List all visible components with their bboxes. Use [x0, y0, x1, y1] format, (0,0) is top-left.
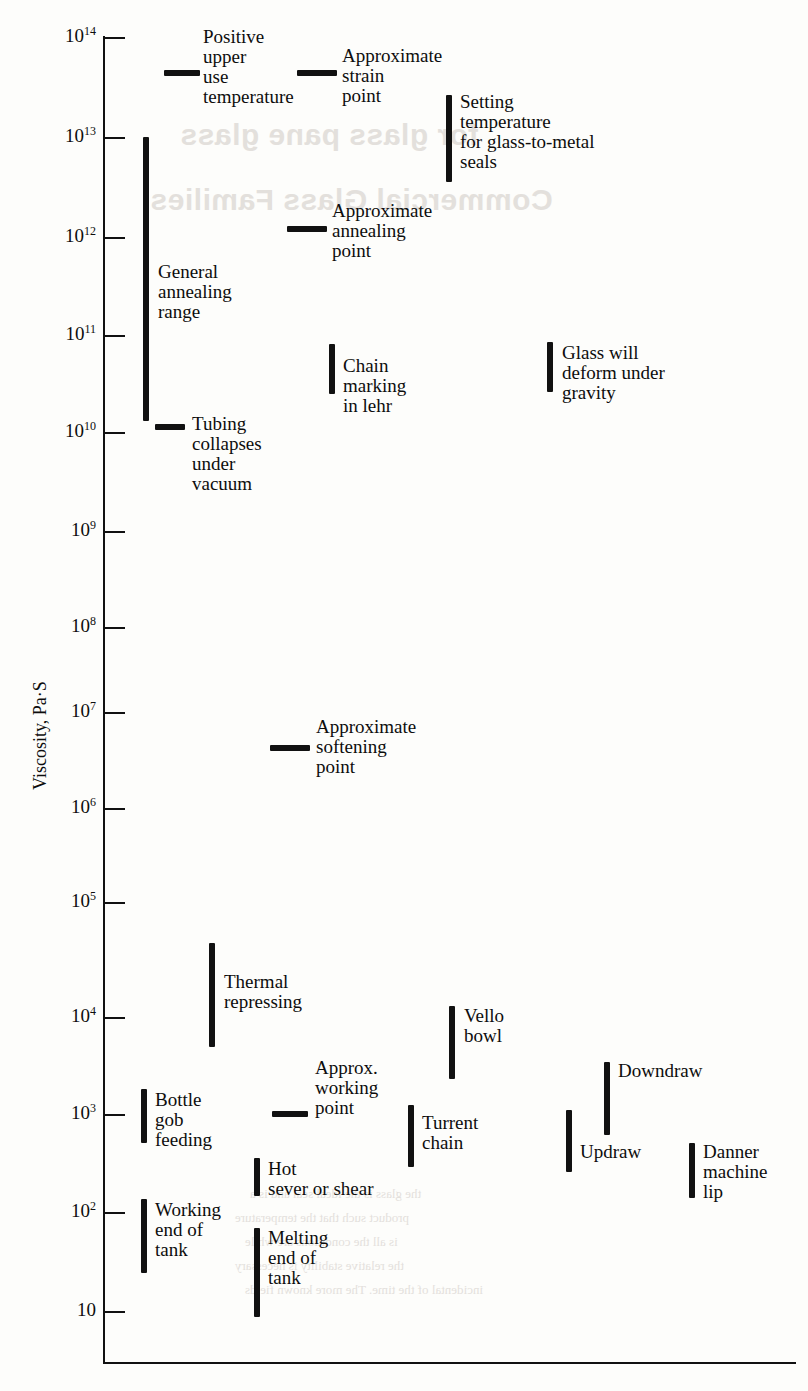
y-axis-tick — [103, 432, 125, 434]
marker-label-downdraw: Downdraw — [618, 1061, 702, 1081]
viscosity-chart: for glass pane glass Commercial Glass Fa… — [0, 0, 808, 1391]
point-dash-approx-working-point — [272, 1111, 308, 1117]
marker-label-approx-working-point: Approx. working point — [315, 1058, 378, 1118]
range-bar-melting-end-of-tank — [254, 1228, 260, 1317]
point-dash-approximate-strain-point — [297, 70, 337, 76]
y-axis-tick-label: 108 — [71, 616, 96, 635]
y-axis-tick-label: 1012 — [65, 226, 96, 245]
range-bar-vello-bowl — [449, 1006, 455, 1079]
y-axis-tick-label: 107 — [71, 701, 96, 720]
y-axis-tick — [103, 902, 125, 904]
y-axis-tick-label: 1013 — [65, 126, 96, 145]
marker-label-updraw: Updraw — [580, 1142, 641, 1162]
range-bar-turrent-chain — [408, 1105, 414, 1167]
y-axis-line — [103, 36, 105, 1363]
marker-label-thermal-repressing: Thermal repressing — [224, 972, 302, 1012]
y-axis-tick — [103, 237, 125, 239]
marker-label-hot-sever-or-shear: Hot sever or shear — [268, 1159, 374, 1199]
range-bar-bottle-gob-feeding — [141, 1089, 147, 1143]
marker-label-vello-bowl: Vello bowl — [464, 1006, 504, 1046]
y-axis-tick — [103, 627, 125, 629]
range-bar-downdraw — [604, 1062, 610, 1135]
point-dash-tubing-collapses-under-vacuum — [155, 424, 185, 430]
marker-label-chain-marking-in-lehr: Chain marking in lehr — [343, 356, 406, 416]
range-bar-updraw — [566, 1110, 572, 1172]
range-bar-danner-machine-lip — [689, 1143, 695, 1198]
marker-label-glass-will-deform-under-gravity: Glass will deform under gravity — [562, 343, 665, 403]
y-axis-tick — [103, 712, 125, 714]
range-bar-glass-will-deform-under-gravity — [547, 342, 553, 392]
ghost-body-line-2: product such that the temperature — [235, 1210, 409, 1226]
range-bar-thermal-repressing — [209, 943, 215, 1047]
range-bar-working-end-of-tank — [141, 1199, 147, 1273]
y-axis-tick-label: 1010 — [65, 421, 96, 440]
marker-label-working-end-of-tank: Working end of tank — [155, 1200, 221, 1260]
y-axis-tick — [103, 531, 125, 533]
y-axis-tick — [103, 335, 125, 337]
y-axis-tick-label: 10 — [77, 1300, 96, 1319]
y-axis-tick-label: 104 — [71, 1006, 96, 1025]
marker-label-approximate-softening-point: Approximate softening point — [316, 717, 416, 777]
marker-label-bottle-gob-feeding: Bottle gob feeding — [155, 1090, 212, 1150]
y-axis-tick — [103, 137, 125, 139]
point-dash-positive-upper-use-temperature — [164, 70, 200, 76]
y-axis-tick — [103, 808, 125, 810]
range-bar-setting-temperature-glass-to-metal-seals — [446, 95, 452, 182]
point-dash-approximate-annealing-point — [287, 226, 327, 232]
y-axis-tick — [103, 1114, 125, 1116]
range-bar-hot-sever-or-shear — [254, 1158, 260, 1196]
marker-label-turrent-chain: Turrent chain — [422, 1113, 478, 1153]
marker-label-melting-end-of-tank: Melting end of tank — [268, 1228, 328, 1288]
y-axis-tick-label: 1011 — [65, 324, 96, 343]
y-axis-tick-label: 106 — [71, 797, 96, 816]
marker-label-general-annealing-range: General annealing range — [158, 262, 232, 322]
marker-label-tubing-collapses-under-vacuum: Tubing collapses under vacuum — [192, 414, 262, 495]
marker-label-approximate-strain-point: Approximate strain point — [342, 46, 442, 106]
y-axis-tick — [103, 37, 125, 39]
point-dash-approximate-softening-point — [270, 745, 310, 751]
x-axis-line — [103, 1362, 796, 1364]
y-axis-tick — [103, 1311, 125, 1313]
ghost-heading-line2: for glass pane glass — [180, 118, 478, 152]
marker-label-approximate-annealing-point: Approximate annealing point — [332, 201, 432, 261]
marker-label-danner-machine-lip: Danner machine lip — [703, 1142, 767, 1202]
y-axis-tick-label: 102 — [71, 1201, 96, 1220]
marker-label-positive-upper-use-temperature: Positive upper use temperature — [203, 27, 294, 108]
y-axis-tick — [103, 1212, 125, 1214]
y-axis-tick-label: 1014 — [65, 26, 96, 45]
y-axis-tick — [103, 1017, 125, 1019]
marker-label-setting-temperature-glass-to-metal-seals: Setting temperature for glass-to-metal s… — [460, 92, 595, 173]
range-bar-chain-marking-in-lehr — [329, 344, 335, 394]
y-axis-tick-label: 105 — [71, 891, 96, 910]
y-axis-tick-label: 109 — [71, 520, 96, 539]
range-bar-general-annealing-range — [143, 137, 149, 421]
y-axis-title: Viscosity, Pa·S — [30, 681, 51, 790]
y-axis-tick-label: 103 — [71, 1103, 96, 1122]
